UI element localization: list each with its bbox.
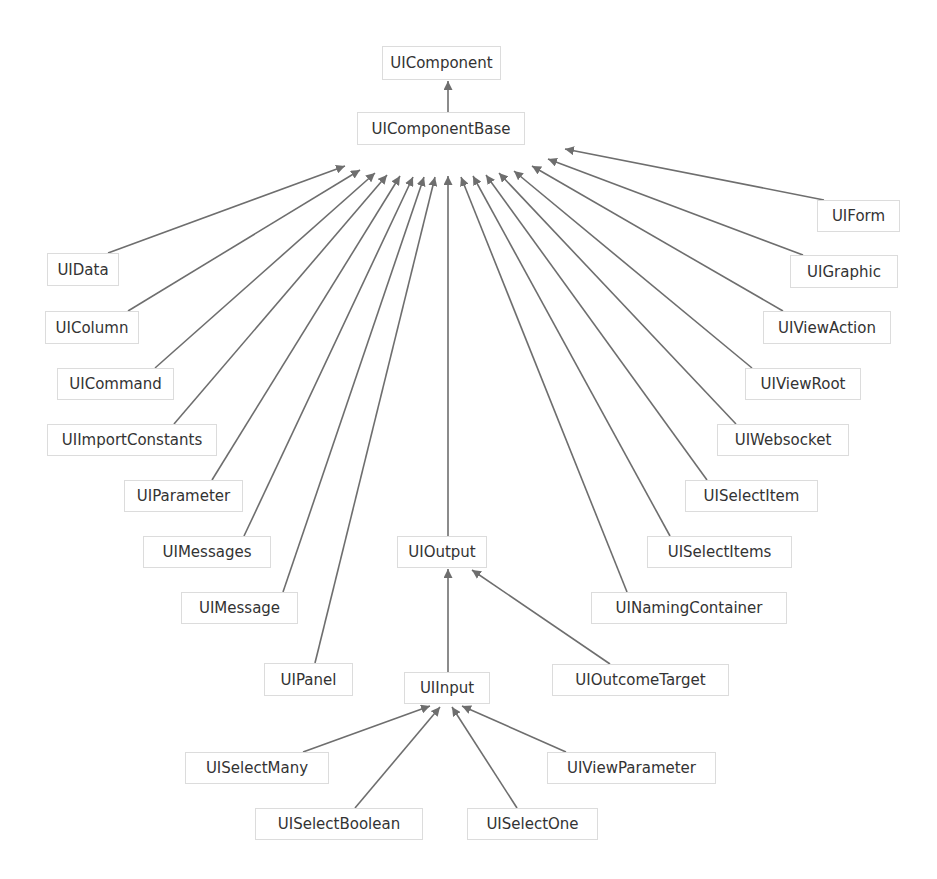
node-label: UIViewRoot	[761, 375, 846, 393]
node-uioutput: UIOutput	[397, 536, 487, 568]
node-uiviewaction: UIViewAction	[763, 311, 891, 344]
node-label: UIOutput	[408, 543, 476, 561]
node-uiviewroot: UIViewRoot	[745, 368, 861, 400]
node-uicomponentbase: UIComponentBase	[357, 112, 525, 145]
node-uimessage: UIMessage	[181, 592, 298, 624]
node-uiselectitems: UISelectItems	[647, 536, 792, 568]
node-label: UIData	[57, 261, 108, 279]
node-label: UISelectMany	[206, 759, 308, 777]
node-label: UIColumn	[56, 319, 129, 337]
node-label: UIViewParameter	[567, 759, 696, 777]
node-label: UIParameter	[137, 487, 230, 505]
edge-uiviewparameter-to-uiinput	[462, 706, 566, 752]
node-label: UINamingContainer	[616, 599, 763, 617]
node-uiviewparameter: UIViewParameter	[547, 752, 716, 784]
node-uigraphic: UIGraphic	[790, 255, 898, 288]
node-label: UISelectBoolean	[278, 815, 400, 833]
edge-uiwebsocket-to-uicomponentbase	[499, 173, 736, 424]
edge-uiselectboolean-to-uiinput	[355, 707, 440, 808]
node-label: UISelectItems	[668, 543, 772, 561]
node-uiform: UIForm	[817, 200, 900, 232]
edge-uimessage-to-uicomponentbase	[283, 177, 424, 592]
node-uiselectmany: UISelectMany	[185, 752, 329, 784]
node-label: UIViewAction	[778, 319, 876, 337]
node-uiselectboolean: UISelectBoolean	[255, 808, 423, 840]
edge-uiselectitems-to-uicomponentbase	[473, 176, 670, 536]
node-label: UIImportConstants	[62, 431, 202, 449]
class-hierarchy-diagram: UIComponentUIComponentBaseUIDataUIColumn…	[0, 0, 937, 879]
edge-uiselectmany-to-uiinput	[303, 706, 430, 752]
node-uiwebsocket: UIWebsocket	[717, 424, 849, 456]
node-uicomponent: UIComponent	[382, 46, 501, 80]
edge-uiselectitem-to-uicomponentbase	[486, 175, 707, 480]
node-label: UIMessage	[199, 599, 280, 617]
node-label: UIComponentBase	[371, 120, 510, 138]
edge-uiform-to-uicomponentbase	[565, 149, 824, 200]
node-label: UIWebsocket	[735, 431, 832, 449]
node-label: UISelectOne	[486, 815, 578, 833]
node-label: UIForm	[832, 207, 885, 225]
node-label: UIMessages	[163, 543, 252, 561]
node-label: UIPanel	[281, 671, 337, 689]
edge-uioutcometarget-to-uioutput	[472, 570, 610, 664]
node-uicolumn: UIColumn	[45, 311, 139, 344]
edge-uidata-to-uicomponentbase	[108, 166, 345, 253]
node-label: UIInput	[420, 679, 474, 697]
edge-uiselectone-to-uiinput	[452, 707, 517, 808]
edge-uigraphic-to-uicomponentbase	[548, 159, 803, 255]
node-uipanel: UIPanel	[264, 663, 353, 696]
edge-uimessages-to-uicomponentbase	[244, 177, 413, 536]
node-uiselectone: UISelectOne	[467, 808, 598, 840]
node-uiselectitem: UISelectItem	[685, 480, 818, 512]
node-label: UIComponent	[390, 54, 493, 72]
node-uicommand: UICommand	[57, 368, 174, 400]
node-uiparameter: UIParameter	[124, 480, 243, 512]
node-uiinput: UIInput	[404, 672, 490, 704]
node-uimessages: UIMessages	[143, 536, 271, 568]
node-uioutcometarget: UIOutcomeTarget	[552, 664, 729, 696]
node-label: UIOutcomeTarget	[575, 671, 705, 689]
node-label: UIGraphic	[807, 263, 881, 281]
edge-uinamingcontainer-to-uicomponentbase	[461, 177, 627, 592]
node-label: UISelectItem	[704, 487, 800, 505]
node-uiimportconstants: UIImportConstants	[47, 424, 217, 456]
node-label: UICommand	[69, 375, 162, 393]
node-uidata: UIData	[47, 253, 119, 286]
edge-uipanel-to-uicomponentbase	[315, 177, 435, 663]
node-uinamingcontainer: UINamingContainer	[591, 592, 787, 624]
edge-uiviewroot-to-uicomponentbase	[514, 171, 752, 368]
